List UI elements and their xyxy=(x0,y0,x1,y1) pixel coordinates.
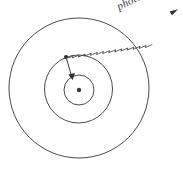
bohr-atom-diagram: photon xyxy=(0,0,183,174)
atom-diagram-canvas xyxy=(0,0,183,174)
nucleus-dot xyxy=(77,88,81,92)
photon-wave-path xyxy=(68,45,152,58)
photon-arrowhead xyxy=(170,9,178,15)
electron-transition-arrow xyxy=(66,57,75,80)
